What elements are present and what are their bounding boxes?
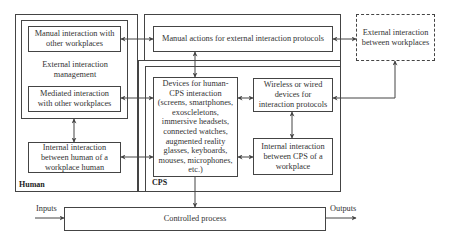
- connector-arrows: [0, 0, 449, 241]
